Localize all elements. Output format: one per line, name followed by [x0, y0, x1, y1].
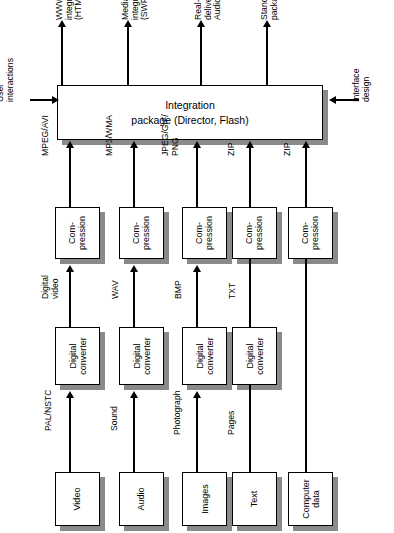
compression-to-hub-label-computer-data: ZIP	[283, 96, 294, 156]
converter-face-text: Digital converter	[232, 327, 277, 385]
compression-to-hub-arrowhead-computer-data	[302, 141, 310, 148]
output-label-standalone: Stand-alone package (EXE)	[260, 0, 272, 20]
converter-box-images[interactable]: Digital converter	[182, 327, 227, 385]
compression-label-text: Com- pression	[244, 216, 264, 250]
compression-label-video: Com- pression	[67, 216, 87, 250]
converter-box-text[interactable]: Digital converter	[232, 327, 277, 385]
compression-label-computer-data: Com- pression	[300, 216, 320, 250]
source-to-converter-label-audio: Sound	[110, 371, 121, 431]
user-interactions-arrowhead	[52, 96, 59, 104]
converter-to-compression-line-text	[249, 259, 251, 327]
converter-to-compression-label-audio: WAV	[111, 239, 122, 299]
converter-box-video[interactable]: Digital converter	[55, 327, 100, 385]
converter-to-compression-arrowhead-video	[66, 265, 74, 272]
source-to-converter-line-audio	[133, 398, 135, 472]
compression-box-computer-data[interactable]: Com- pression	[288, 207, 333, 259]
converter-to-compression-line-images	[196, 272, 198, 327]
compression-box-audio[interactable]: Com- pression	[119, 207, 164, 259]
converter-label-video: Digital converter	[67, 337, 87, 375]
compression-to-hub-arrowhead-images	[193, 141, 201, 148]
source-box-audio[interactable]: Audio	[119, 472, 164, 526]
user-interactions-label: User interactions	[0, 32, 8, 102]
compression-to-hub-arrowhead-video	[66, 141, 74, 148]
compression-to-hub-label-audio: MP3/WMA	[105, 86, 116, 156]
compression-to-hub-line-audio	[133, 148, 135, 208]
converter-to-compression-line-video	[69, 272, 71, 327]
compression-to-hub-arrowhead-text	[246, 141, 254, 148]
converter-to-compression-label-images: BMP	[174, 239, 185, 299]
compression-to-hub-line-text	[249, 148, 251, 208]
compression-box-video[interactable]: Com- pression	[55, 207, 100, 259]
source-to-converter-line-images	[196, 398, 198, 472]
compression-to-hub-line-computer-data	[305, 148, 307, 208]
source-face-images: Images	[182, 472, 227, 526]
converter-face-images: Digital converter	[182, 327, 227, 385]
compression-to-hub-label-video: MPEG/AVI	[41, 86, 52, 156]
interface-design-label: Interface design	[352, 32, 364, 102]
source-box-computer-data[interactable]: Computer data	[288, 472, 333, 526]
source-to-converter-label-images: Photograph	[173, 365, 184, 435]
converter-label-images: Digital converter	[194, 337, 214, 375]
compression-to-hub-label-text: ZIP	[227, 96, 238, 156]
output-label-mediaplayer: Media player integration (SWF/DCR)	[121, 0, 133, 20]
source-face-computer-data: Computer data	[288, 472, 333, 526]
source-to-converter-arrowhead-audio	[130, 391, 138, 398]
compression-to-hub-label-images: JPEG/GIF/ PNG	[161, 86, 172, 156]
source-to-converter-arrowhead-video	[66, 391, 74, 398]
converter-label-audio: Digital converter	[131, 337, 151, 375]
converter-to-compression-label-video: Digital video	[41, 239, 52, 299]
compression-to-hub-line-images	[196, 148, 198, 208]
output-line-mediaplayer	[127, 26, 129, 88]
interface-design-arrowhead	[329, 96, 336, 104]
converter-face-audio: Digital converter	[119, 327, 164, 385]
source-box-images[interactable]: Images	[182, 472, 227, 526]
source-to-converter-line-text	[249, 385, 251, 472]
compression-face-computer-data: Com- pression	[288, 207, 333, 259]
source-label-audio: Audio	[136, 487, 146, 510]
source-box-video[interactable]: Video	[55, 472, 100, 526]
compression-label-audio: Com- pression	[131, 216, 151, 250]
source-box-text[interactable]: Text	[232, 472, 277, 526]
converter-to-compression-line-audio	[133, 272, 135, 327]
output-line-standalone	[266, 26, 268, 88]
converter-to-compression-label-text: TXT	[228, 239, 239, 299]
compression-to-hub-line-video	[69, 148, 71, 208]
compression-face-images: Com- pression	[182, 207, 227, 259]
compression-box-images[interactable]: Com- pression	[182, 207, 227, 259]
converter-to-compression-arrowhead-audio	[130, 265, 138, 272]
converter-label-text: Digital converter	[244, 337, 264, 375]
output-line-realtime	[200, 26, 202, 88]
source-label-video: Video	[72, 488, 82, 511]
compression-label-images: Com- pression	[194, 216, 214, 250]
compression-to-hub-arrowhead-audio	[130, 141, 138, 148]
compression-face-video: Com- pression	[55, 207, 100, 259]
source-to-converter-label-text: Pages	[227, 375, 238, 435]
diagram-canvas: WWW integration (HTML/GIF) Media player …	[0, 0, 394, 533]
source-to-converter-label-video: PAL/NSTC	[44, 371, 55, 431]
converter-face-video: Digital converter	[55, 327, 100, 385]
source-to-compression-line-computer-data	[305, 259, 307, 472]
source-face-video: Video	[55, 472, 100, 526]
source-face-text: Text	[232, 472, 277, 526]
source-face-audio: Audio	[119, 472, 164, 526]
output-line-www	[61, 26, 63, 88]
output-arrowhead-standalone	[263, 20, 271, 27]
output-label-realtime: Real-time delivery (Real Audio)	[194, 0, 206, 20]
source-label-computer-data: Computer data	[300, 479, 320, 519]
converter-to-compression-arrowhead-images	[193, 265, 201, 272]
output-arrowhead-mediaplayer	[124, 20, 132, 27]
output-label-www: WWW integration (HTML/GIF)	[55, 0, 67, 20]
source-label-text: Text	[249, 491, 259, 508]
source-to-converter-line-video	[69, 398, 71, 472]
converter-box-audio[interactable]: Digital converter	[119, 327, 164, 385]
output-arrowhead-realtime	[197, 20, 205, 27]
compression-face-audio: Com- pression	[119, 207, 164, 259]
source-label-images: Images	[199, 484, 209, 514]
output-arrowhead-www	[58, 20, 66, 27]
source-to-converter-arrowhead-images	[193, 391, 201, 398]
